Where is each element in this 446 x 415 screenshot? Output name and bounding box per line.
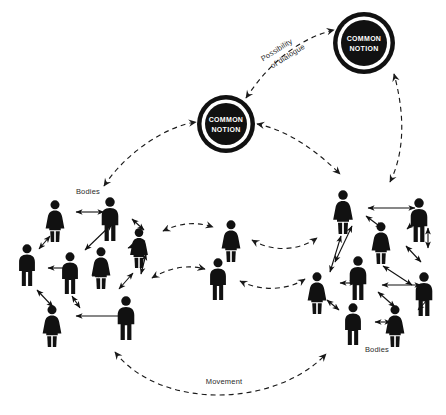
label-bodies-right: Bodies	[365, 345, 389, 354]
diagram-svg: COMMON NOTION COMMON NOTION Bodies Bodie…	[0, 0, 446, 415]
label-bodies-left: Bodies	[76, 187, 100, 196]
node-ring-inner	[205, 103, 247, 145]
node-label-line2: NOTION	[349, 45, 378, 52]
node-common-notion-center[interactable]: COMMON NOTION	[197, 95, 255, 153]
label-movement: Movement	[206, 377, 243, 386]
node-ring-inner	[341, 20, 387, 66]
diagram-canvas: COMMON NOTION COMMON NOTION Bodies Bodie…	[0, 0, 446, 415]
node-label-line1: COMMON	[209, 116, 243, 123]
node-common-notion-topright[interactable]: COMMON NOTION	[333, 12, 395, 74]
node-label-line2: NOTION	[211, 126, 240, 133]
node-label-line1: COMMON	[347, 35, 381, 42]
